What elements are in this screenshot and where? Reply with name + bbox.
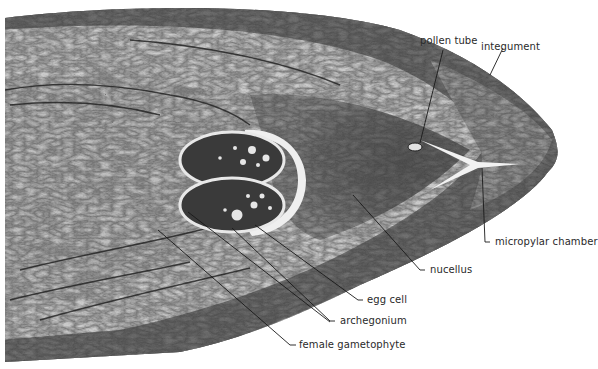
label-integument: integument <box>481 41 540 53</box>
label-micropylar-chamber: micropylar chamber <box>495 236 598 248</box>
label-egg-cell: egg cell <box>367 294 407 306</box>
label-archegonium: archegonium <box>340 315 407 327</box>
label-pollen-tube: pollen tube <box>420 35 478 47</box>
label-female-gametophyte: female gametophyte <box>299 339 406 351</box>
label-nucellus: nucellus <box>430 264 472 276</box>
